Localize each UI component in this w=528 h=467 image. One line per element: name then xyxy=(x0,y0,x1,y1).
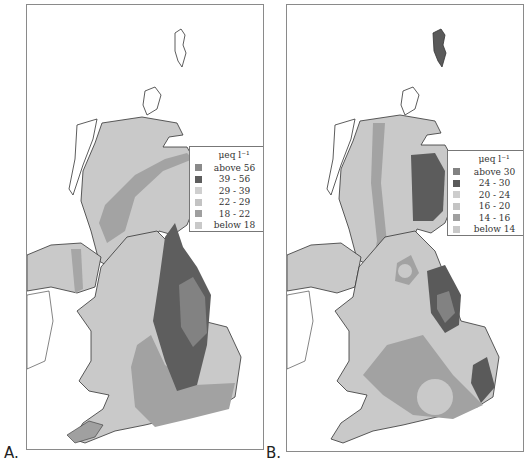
legend-swatch xyxy=(195,222,202,229)
legend-label: above 56 xyxy=(210,163,259,173)
legend-label: 16 - 20 xyxy=(468,201,521,211)
legend-row: 24 - 30 xyxy=(453,178,521,190)
legend-unit: μeq l⁻¹ xyxy=(195,150,259,160)
legend-label: below 18 xyxy=(210,220,259,230)
legend-row: 39 - 56 xyxy=(195,174,259,186)
panel-label-b: B. xyxy=(266,444,281,462)
legend-a: μeq l⁻¹ above 56 39 - 56 29 - 39 22 - 29… xyxy=(189,146,264,232)
legend-swatch xyxy=(453,226,460,233)
legend-row: 22 - 29 xyxy=(195,197,259,209)
legend-row: above 56 xyxy=(195,162,259,174)
legend-row: below 18 xyxy=(195,220,259,232)
map-panel-a: μeq l⁻¹ above 56 39 - 56 29 - 39 22 - 29… xyxy=(26,4,264,450)
legend-label: 29 - 39 xyxy=(210,186,259,196)
legend-label: 18 - 22 xyxy=(210,209,259,219)
legend-label: 14 - 16 xyxy=(468,213,521,223)
legend-row: above 30 xyxy=(453,166,521,178)
legend-swatch xyxy=(453,180,460,187)
legend-label: 24 - 30 xyxy=(468,178,521,188)
legend-row: 14 - 16 xyxy=(453,212,521,224)
legend-label: 39 - 56 xyxy=(210,174,259,184)
legend-swatch xyxy=(195,176,202,183)
legend-swatch xyxy=(195,199,202,206)
legend-row: 29 - 39 xyxy=(195,185,259,197)
legend-label: 22 - 29 xyxy=(210,197,259,207)
legend-swatch xyxy=(453,214,460,221)
legend-label: above 30 xyxy=(468,167,521,177)
legend-swatch xyxy=(195,210,202,217)
legend-swatch xyxy=(195,164,202,171)
legend-swatch xyxy=(453,203,460,210)
legend-swatch xyxy=(453,191,460,198)
legend-b: μeq l⁻¹ above 30 24 - 30 20 - 24 16 - 20… xyxy=(447,150,524,236)
legend-row: below 14 xyxy=(453,224,521,236)
legend-swatch xyxy=(453,168,460,175)
legend-label: below 14 xyxy=(468,224,521,234)
legend-row: 18 - 22 xyxy=(195,208,259,220)
map-panel-b: μeq l⁻¹ above 30 24 - 30 20 - 24 16 - 20… xyxy=(286,4,524,452)
legend-swatch xyxy=(195,187,202,194)
legend-unit: μeq l⁻¹ xyxy=(453,154,521,164)
legend-label: 20 - 24 xyxy=(468,190,521,200)
panel-label-a: A. xyxy=(4,444,19,462)
legend-row: 16 - 20 xyxy=(453,201,521,213)
legend-row: 20 - 24 xyxy=(453,189,521,201)
